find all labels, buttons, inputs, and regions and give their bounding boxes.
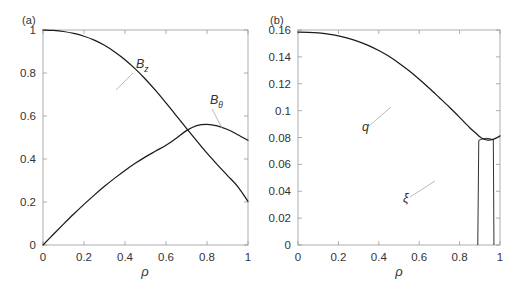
- ytick-label: 0.02: [269, 212, 291, 224]
- figure-container: (a) 00.20.40.60.8100.20.40.60.81 BzBθ ρ …: [0, 0, 515, 287]
- ytick-label: 0.04: [269, 185, 292, 197]
- ytick-label: 0.16: [269, 24, 291, 36]
- leader-line-q: [369, 107, 391, 126]
- ytick-label: 0.4: [20, 153, 37, 165]
- ytick-label: 0.6: [20, 110, 36, 122]
- panel-b-curves: [298, 32, 500, 245]
- panel-a-curves: [43, 30, 248, 245]
- panel-a-tickmarks: [43, 30, 248, 245]
- curve-label-Btheta: Bθ: [210, 93, 223, 110]
- ytick-label: 0.8: [20, 67, 36, 79]
- ytick-label: 1: [30, 24, 36, 36]
- xtick-label: 0.2: [330, 251, 346, 263]
- xtick-label: 0.4: [117, 251, 134, 263]
- curve-label-q: q: [362, 120, 369, 134]
- leader-line-Bz: [116, 73, 133, 90]
- ytick-label: 0.2: [20, 196, 36, 208]
- ytick-label: 0.14: [269, 51, 292, 63]
- curve-q: [298, 32, 500, 140]
- panel-a-xaxis-label: ρ: [140, 264, 149, 279]
- panel-a-annotations: BzBθ: [116, 57, 223, 128]
- xtick-label: 0.6: [411, 251, 427, 263]
- curve-B_z: [43, 30, 248, 201]
- panel-b: (b) 00.20.40.60.8100.020.040.060.080.10.…: [258, 0, 515, 287]
- panel-a: (a) 00.20.40.60.8100.20.40.60.81 BzBθ ρ: [0, 0, 257, 287]
- xtick-label: 0.4: [371, 251, 388, 263]
- xtick-label: 1: [497, 251, 503, 263]
- panel-a-axes: 00.20.40.60.8100.20.40.60.81 BzBθ ρ: [0, 0, 257, 287]
- ytick-label: 0.12: [269, 78, 291, 90]
- xtick-label: 1: [245, 251, 251, 263]
- panel-b-annotations: qξ: [362, 107, 435, 205]
- panel-b-xaxis-label: ρ: [394, 264, 403, 279]
- curve-xi: [478, 138, 494, 245]
- panel-a-plot-frame: [43, 30, 248, 245]
- panel-b-tickmarks: [298, 30, 500, 245]
- ytick-label: 0: [285, 239, 291, 251]
- leader-line-xi: [410, 181, 435, 197]
- xtick-label: 0.6: [158, 251, 174, 263]
- xtick-label: 0.8: [452, 251, 468, 263]
- xtick-label: 0.8: [199, 251, 215, 263]
- panel-b-plot-frame: [298, 30, 500, 245]
- xtick-label: 0: [295, 251, 301, 263]
- curve-B_theta: [43, 124, 248, 245]
- xtick-label: 0: [40, 251, 46, 263]
- ytick-label: 0: [30, 239, 36, 251]
- panel-b-ticklabels: 00.20.40.60.8100.020.040.060.080.10.120.…: [269, 24, 504, 263]
- curve-label-xi: ξ: [403, 191, 410, 205]
- ytick-label: 0.1: [275, 105, 291, 117]
- panel-b-axes: 00.20.40.60.8100.020.040.060.080.10.120.…: [258, 0, 515, 287]
- ytick-label: 0.08: [269, 132, 291, 144]
- ytick-label: 0.06: [269, 158, 291, 170]
- xtick-label: 0.2: [76, 251, 92, 263]
